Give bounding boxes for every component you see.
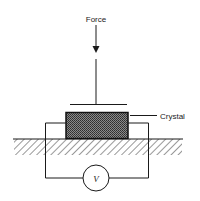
piezoelectric-diagram: Force Crystal V [0, 0, 200, 201]
crystal-label: Crystal [160, 112, 185, 121]
voltmeter: V [83, 165, 109, 191]
force-arrow-icon [93, 25, 100, 53]
crystal [66, 113, 128, 139]
ground-base [13, 139, 183, 155]
force-label: Force [86, 15, 107, 24]
